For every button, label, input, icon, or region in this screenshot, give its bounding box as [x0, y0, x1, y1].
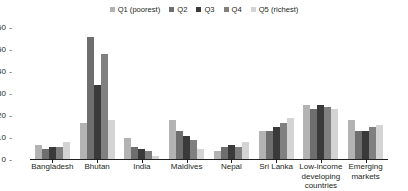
- x-axis-label-line: Sri Lanka: [254, 162, 299, 172]
- x-axis-label-line: Maldives: [164, 162, 209, 172]
- bar[interactable]: [348, 120, 355, 160]
- bar[interactable]: [266, 131, 273, 160]
- bar-groups: [30, 28, 388, 160]
- x-axis-label-line: India: [120, 162, 165, 172]
- bar-group: [30, 28, 75, 160]
- legend-item-label: Q1 (poorest): [118, 6, 161, 14]
- chart-legend: Q1 (poorest)Q2Q3Q4Q5 (richest): [0, 6, 408, 14]
- bar[interactable]: [169, 120, 176, 160]
- x-axis-label-line: Emerging: [343, 162, 388, 172]
- bar[interactable]: [287, 118, 294, 160]
- bar-group: [254, 28, 299, 160]
- bar[interactable]: [303, 105, 310, 160]
- bar[interactable]: [331, 109, 338, 160]
- x-axis-label-line: Nepal: [209, 162, 254, 172]
- bar[interactable]: [80, 123, 87, 160]
- legend-swatch-icon: [196, 7, 201, 12]
- x-axis-baseline: [30, 159, 388, 160]
- bar[interactable]: [35, 145, 42, 160]
- bar[interactable]: [310, 109, 317, 160]
- y-axis-tick-label: 30: [0, 90, 6, 98]
- y-axis-tick-label: 50: [0, 46, 6, 54]
- y-axis-tick-mark: -: [9, 156, 12, 164]
- x-axis-label-line: developing: [299, 172, 344, 182]
- x-axis-label-line: Low-income: [299, 162, 344, 172]
- legend-item-label: Q3: [204, 6, 214, 14]
- bar[interactable]: [190, 140, 197, 160]
- x-axis-label-line: Bangladesh: [30, 162, 75, 172]
- legend-item[interactable]: Q4: [224, 6, 242, 14]
- bar[interactable]: [124, 138, 131, 160]
- bar-group: [209, 28, 254, 160]
- x-axis-label: Nepal: [209, 162, 254, 191]
- legend-swatch-icon: [251, 7, 256, 12]
- x-axis-labels: BangladeshBhutanIndiaMaldivesNepalSri La…: [30, 162, 388, 191]
- x-axis-label: Low-incomedevelopingcountries: [299, 162, 344, 191]
- bar[interactable]: [242, 142, 249, 160]
- bar-group: [120, 28, 165, 160]
- bar[interactable]: [376, 125, 383, 160]
- bar-group: [164, 28, 209, 160]
- bar[interactable]: [324, 107, 331, 160]
- bar[interactable]: [94, 85, 101, 160]
- bar[interactable]: [108, 120, 115, 160]
- bar-group: [75, 28, 120, 160]
- bar[interactable]: [280, 123, 287, 160]
- legend-item[interactable]: Q2: [169, 6, 187, 14]
- y-axis-tick-mark: -: [9, 112, 12, 120]
- bar[interactable]: [273, 127, 280, 160]
- bar-group: [299, 28, 344, 160]
- x-axis-label: Bangladesh: [30, 162, 75, 191]
- legend-item[interactable]: Q3: [196, 6, 214, 14]
- bar[interactable]: [317, 105, 324, 160]
- legend-item-label: Q5 (richest): [259, 6, 299, 14]
- x-axis-label: India: [120, 162, 165, 191]
- bar[interactable]: [87, 37, 94, 160]
- bar[interactable]: [355, 131, 362, 160]
- x-axis-label-line: markets: [343, 172, 388, 182]
- bar[interactable]: [183, 136, 190, 160]
- bar-group: [343, 28, 388, 160]
- x-axis-label: Emergingmarkets: [343, 162, 388, 191]
- y-axis-tick-mark: -: [9, 46, 12, 54]
- legend-swatch-icon: [110, 7, 115, 12]
- bar[interactable]: [63, 142, 70, 160]
- x-axis-label: Sri Lanka: [254, 162, 299, 191]
- bar-chart: Q1 (poorest)Q2Q3Q4Q5 (richest) 0-10--20-…: [0, 0, 408, 191]
- bar[interactable]: [362, 131, 369, 160]
- legend-item[interactable]: Q1 (poorest): [110, 6, 161, 14]
- y-axis-tick-label: 40: [0, 68, 6, 76]
- legend-item-label: Q2: [177, 6, 187, 14]
- x-axis-label-line: countries: [299, 181, 344, 191]
- y-axis-tick-label: 20: [0, 112, 6, 120]
- legend-swatch-icon: [169, 7, 174, 12]
- bar[interactable]: [101, 54, 108, 160]
- y-axis-tick-mark: -: [9, 24, 12, 32]
- x-axis-label-line: Bhutan: [75, 162, 120, 172]
- y-axis-tick-label: 0: [2, 156, 6, 164]
- y-axis-tick-label: 60: [0, 24, 6, 32]
- y-axis-tick-mark: -: [9, 134, 12, 142]
- bar[interactable]: [228, 145, 235, 160]
- legend-swatch-icon: [224, 7, 229, 12]
- plot-area: 0-10--20--30--40--50--60--: [30, 28, 388, 160]
- legend-item-label: Q4: [232, 6, 242, 14]
- y-axis-tick-mark: -: [9, 90, 12, 98]
- legend-item[interactable]: Q5 (richest): [251, 6, 299, 14]
- x-axis-label: Bhutan: [75, 162, 120, 191]
- y-axis-tick-mark: -: [9, 68, 12, 76]
- bar[interactable]: [176, 131, 183, 160]
- y-axis-tick-label: 10: [0, 134, 6, 142]
- bar[interactable]: [369, 127, 376, 160]
- bar[interactable]: [259, 131, 266, 160]
- x-axis-label: Maldives: [164, 162, 209, 191]
